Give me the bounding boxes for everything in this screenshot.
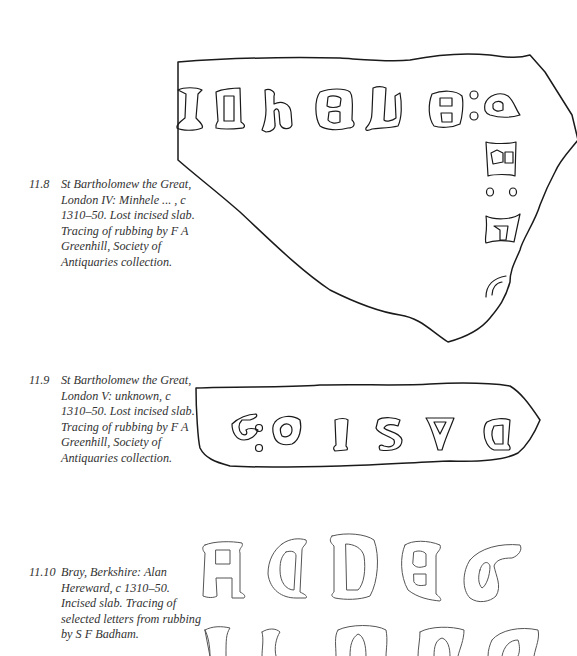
letter-G-row1 xyxy=(464,545,521,602)
letter-N-row2 xyxy=(418,627,464,656)
letter-M-row2 xyxy=(336,626,387,656)
letter-A-row1 xyxy=(203,542,245,598)
letter-I-row2 xyxy=(205,627,230,656)
letter-L-row2 xyxy=(262,629,280,656)
letter-D-row1 xyxy=(330,534,377,599)
letter-A-2-row1 xyxy=(268,539,307,598)
letter-O-row2 xyxy=(488,628,539,656)
letter-E-row1 xyxy=(402,541,441,601)
figure-11-10-letter-tracings xyxy=(0,0,577,656)
